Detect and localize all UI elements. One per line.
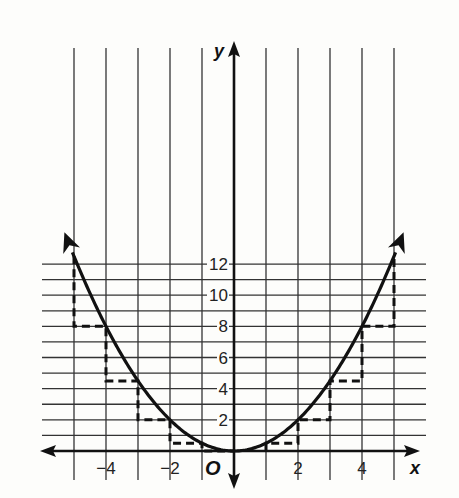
y-axis-label: y [213, 41, 225, 61]
y-tick-label: 4 [219, 380, 228, 399]
x-tick-label: −2 [160, 459, 179, 478]
parabola-chart: −4−22424681012 x y O [0, 0, 459, 498]
x-tick-label: 4 [357, 459, 366, 478]
y-tick-label: 8 [219, 317, 228, 336]
x-axis-label: x [409, 458, 421, 478]
y-tick-label: 6 [219, 349, 228, 368]
tick-labels: −4−22424681012 [96, 255, 366, 478]
y-tick-label: 12 [209, 255, 228, 274]
x-tick-label: −4 [96, 459, 115, 478]
y-tick-label: 10 [209, 286, 228, 305]
axes [40, 41, 420, 489]
y-tick-label: 2 [219, 411, 228, 430]
curve-arrow-icon [63, 232, 80, 254]
origin-label: O [205, 457, 221, 479]
x-tick-label: 2 [293, 459, 302, 478]
curve-arrow-icon [388, 232, 405, 254]
